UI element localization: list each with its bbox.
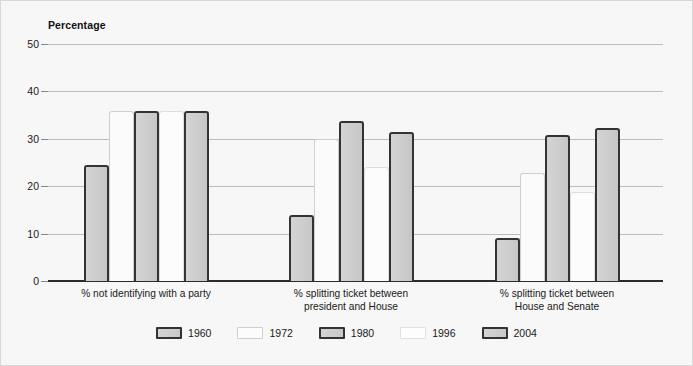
bar-group [495, 44, 620, 281]
legend-item-2004[interactable]: 2004 [482, 327, 537, 339]
legend-label: 1980 [351, 327, 374, 339]
bar-group [84, 44, 209, 281]
bar-1960-group-1 [84, 165, 109, 281]
legend-swatch-icon [156, 327, 182, 339]
bar-1972-group-3 [520, 173, 545, 281]
category-label: % splitting ticket between House and Sen… [447, 287, 667, 313]
bar-1980-group-2 [339, 121, 364, 281]
legend-item-1960[interactable]: 1960 [156, 327, 211, 339]
y-axis-tick-mark [41, 91, 48, 92]
legend-label: 2004 [514, 327, 537, 339]
bar-1996-group-2 [364, 167, 389, 281]
y-axis-tick-label: 30 [13, 133, 39, 145]
bar-group [289, 44, 414, 281]
bar-1980-group-3 [545, 135, 570, 281]
y-axis-tick-mark [41, 44, 48, 45]
y-axis-tick-label: 0 [13, 275, 39, 287]
bar-1972-group-1 [109, 111, 134, 281]
bar-1972-group-2 [314, 139, 339, 281]
legend-label: 1972 [269, 327, 292, 339]
bar-1960-group-2 [289, 215, 314, 281]
y-axis-tick-mark [41, 234, 48, 235]
bar-1996-group-1 [159, 111, 184, 281]
chart-figure: Percentage 01020304050 % not identifying… [0, 0, 693, 366]
chart-legend: 19601972198019962004 [1, 327, 692, 339]
y-axis-tick-label: 50 [13, 38, 39, 50]
y-axis-tick-mark [41, 186, 48, 187]
bar-1980-group-1 [134, 111, 159, 281]
legend-swatch-icon [400, 327, 426, 339]
legend-swatch-icon [482, 327, 508, 339]
legend-item-1980[interactable]: 1980 [319, 327, 374, 339]
category-label: % splitting ticket between president and… [241, 287, 461, 313]
bar-2004-group-2 [389, 132, 414, 281]
y-axis-title: Percentage [48, 19, 106, 31]
legend-item-1996[interactable]: 1996 [400, 327, 455, 339]
y-axis-tick-label: 10 [13, 228, 39, 240]
y-axis-tick-label: 40 [13, 85, 39, 97]
y-axis-tick-mark [41, 139, 48, 140]
category-label: % not identifying with a party [36, 287, 256, 300]
legend-swatch-icon [319, 327, 345, 339]
legend-label: 1996 [432, 327, 455, 339]
legend-item-1972[interactable]: 1972 [237, 327, 292, 339]
bar-2004-group-3 [595, 128, 620, 281]
legend-swatch-icon [237, 327, 263, 339]
bar-1996-group-3 [570, 192, 595, 281]
bar-2004-group-1 [184, 111, 209, 281]
plot-area [48, 44, 663, 281]
bar-1960-group-3 [495, 238, 520, 281]
y-axis-tick-label: 20 [13, 180, 39, 192]
y-axis-tick-mark [41, 281, 48, 282]
legend-label: 1960 [188, 327, 211, 339]
